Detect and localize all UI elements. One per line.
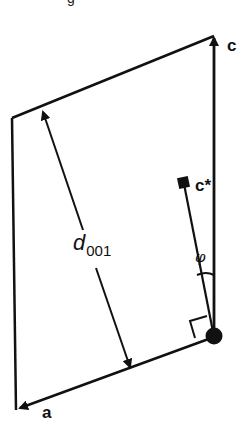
d-symbol: d: [73, 230, 85, 255]
c-axis-label: c: [227, 37, 236, 54]
a-axis-arrow: [20, 337, 214, 408]
cell-left-edge: [12, 118, 16, 410]
unit-cell-diagram: [0, 0, 247, 434]
d001-label: d001: [73, 232, 110, 254]
c-star-label: c*: [195, 177, 211, 194]
phi-angle-label: φ: [195, 250, 206, 265]
d001-arrow-upper: [43, 112, 83, 230]
cutoff-caption-text: g: [67, 0, 75, 6]
origin-point: [206, 328, 223, 345]
a-axis-label: a: [42, 404, 51, 421]
phi-angle-arc: [197, 273, 214, 275]
d001-arrow-lower: [96, 268, 130, 367]
c-star-square-marker: [177, 176, 190, 189]
cell-top-edge: [12, 36, 214, 118]
right-angle-marker: [190, 316, 207, 338]
d-subscript: 001: [86, 242, 111, 259]
